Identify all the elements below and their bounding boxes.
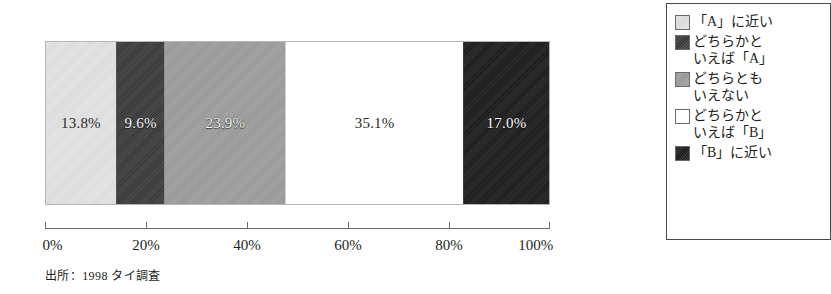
bar-segment-value-label: 13.8% xyxy=(61,115,101,132)
stacked-bar-plot: 13.8% 9.6% 23.9% 35.1% 17.0% xyxy=(45,41,550,205)
legend-swatch-icon xyxy=(675,35,690,50)
axis-tick-label-0: 0% xyxy=(43,237,63,254)
legend-item-somewhat-a: どちらかと いえば「A」 xyxy=(675,33,830,67)
legend-item-b-close: 「B」に近い xyxy=(675,144,830,161)
axis-tick xyxy=(348,222,349,228)
source-note: 出所：1998 タイ調査 xyxy=(45,266,161,284)
legend-panel: 「A」に近い どちらかと いえば「A」 どちらとも いえない どちらかと いえば… xyxy=(666,3,831,240)
legend-item-a-close: 「A」に近い xyxy=(675,13,830,30)
legend-item-label: どちらかと いえば「B」 xyxy=(693,107,772,141)
legend-item-label: 「A」に近い xyxy=(693,13,773,30)
legend-item-neither: どちらとも いえない xyxy=(675,70,830,104)
bar-segment-value-label: 9.6% xyxy=(125,115,157,132)
axis-tick-label-60: 60% xyxy=(334,237,362,254)
legend-item-label: 「B」に近い xyxy=(693,144,772,161)
axis-tick xyxy=(247,222,248,228)
axis-tick-label-40: 40% xyxy=(233,237,261,254)
axis-tick-label-80: 80% xyxy=(435,237,463,254)
stacked-bar-chart-figure: 13.8% 9.6% 23.9% 35.1% 17.0% 0% 20% 40% … xyxy=(0,0,620,294)
bar-segment-a-close: 13.8% xyxy=(46,42,116,204)
bar-segment-value-label: 35.1% xyxy=(355,115,395,132)
axis-tick xyxy=(449,222,450,228)
legend-item-somewhat-b: どちらかと いえば「B」 xyxy=(675,107,830,141)
bar-segment-b-close: 17.0% xyxy=(463,42,549,204)
legend-item-label: どちらかと いえば「A」 xyxy=(693,33,773,67)
legend-swatch-icon xyxy=(675,109,690,124)
legend-swatch-icon xyxy=(675,72,690,87)
axis-tick-label-100: 100% xyxy=(518,237,553,254)
bar-segment-neither: 23.9% xyxy=(164,42,285,204)
bar-segment-value-label: 17.0% xyxy=(487,115,527,132)
x-axis: 0% 20% 40% 60% 80% 100% xyxy=(45,228,550,229)
bar-segment-somewhat-a: 9.6% xyxy=(116,42,165,204)
legend-item-label: どちらとも いえない xyxy=(693,70,763,104)
axis-tick-label-20: 20% xyxy=(132,237,160,254)
legend-swatch-icon xyxy=(675,15,690,30)
legend-swatch-icon xyxy=(675,146,690,161)
axis-tick xyxy=(45,222,46,228)
bar-segment-value-label: 23.9% xyxy=(206,115,246,132)
bar-segment-somewhat-b: 35.1% xyxy=(285,42,463,204)
axis-tick xyxy=(146,222,147,228)
axis-tick xyxy=(549,222,550,228)
